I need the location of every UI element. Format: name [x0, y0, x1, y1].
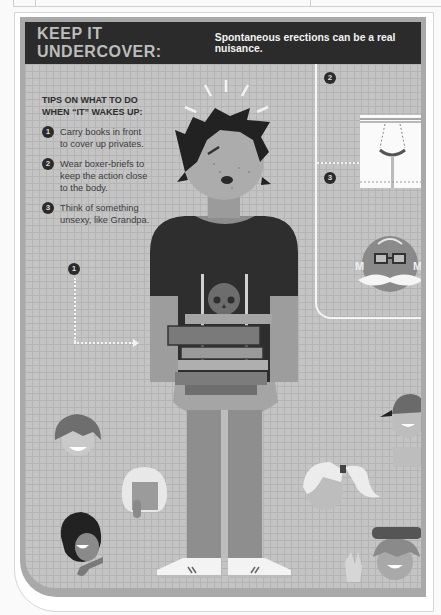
books-stack-icon: [168, 314, 272, 395]
kid-face-icon: [55, 414, 101, 456]
svg-text:M: M: [413, 260, 421, 272]
excitement-lines-icon: [185, 80, 268, 112]
grandpa-face-icon: M M: [355, 236, 421, 292]
kid-face-icon: [61, 512, 103, 576]
kid-face-icon: [380, 394, 421, 467]
infographic-panel: KEEP IT UNDERCOVER: Spontaneous erection…: [25, 22, 421, 588]
kid-face-icon: [345, 527, 421, 582]
kid-face-icon: [122, 467, 167, 518]
top-strip: [13, 0, 441, 7]
illustration: M M: [25, 22, 421, 588]
kid-face-icon: [303, 462, 380, 510]
svg-text:M: M: [355, 260, 364, 272]
boxer-briefs-icon: [360, 115, 421, 188]
